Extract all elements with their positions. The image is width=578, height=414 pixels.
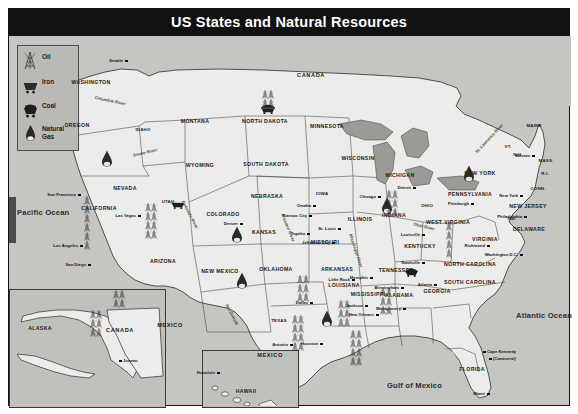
- alaska-inset: [9, 289, 166, 408]
- city-dot: [401, 287, 404, 290]
- legend-label-coal: Coal: [42, 102, 56, 110]
- city-label-las-vegas: Las Vegas: [116, 213, 137, 218]
- city-label-new-york: New York: [499, 193, 518, 198]
- map-page: US States and Natural Resources: [0, 0, 578, 414]
- city-dot: [313, 205, 316, 208]
- city-dot: [365, 305, 368, 308]
- legend-label-iron: Iron: [42, 78, 54, 86]
- country-label-mexico-2: MEXICO: [157, 322, 183, 328]
- state-label-iowa: IOWA: [316, 191, 329, 196]
- state-label-conn-: CONN.: [530, 186, 545, 191]
- ocean-label-atlantic-ocean: Atlantic Ocean: [516, 311, 572, 320]
- title-bar: US States and Natural Resources: [9, 9, 569, 36]
- city-label-san-diego: San Diego: [66, 262, 86, 267]
- state-label-r-i-: R.I.: [541, 171, 549, 176]
- state-label-mass-: MASS.: [539, 158, 554, 163]
- state-label-kentucky: KENTUCKY: [404, 243, 436, 249]
- city-dot: [217, 372, 220, 375]
- city-label--canaveral-: (Canaveral): [493, 356, 516, 361]
- city-dot: [376, 314, 379, 317]
- state-label-south-dakota: SOUTH DAKOTA: [243, 161, 289, 167]
- state-label-florida: FLORIDA: [459, 366, 485, 372]
- oil-field-icon: [292, 315, 304, 351]
- city-label-st-louis: St. Louis: [318, 226, 336, 231]
- city-dot: [413, 187, 416, 190]
- city-dot: [138, 215, 141, 218]
- city-label-cape-kennedy: Cape Kennedy: [487, 349, 516, 354]
- city-dot: [471, 203, 474, 206]
- natural-gas-drop-icon: [231, 226, 243, 247]
- legend-box: Oil Iron: [17, 45, 79, 151]
- oil-field-icon: [262, 90, 274, 108]
- state-label-kansas: KANSAS: [252, 229, 276, 235]
- state-label-virginia: VIRGINIA: [472, 236, 498, 242]
- scroll-edge-marker[interactable]: [9, 197, 16, 243]
- city-label-boston: Boston: [516, 153, 530, 158]
- oil-field-icon: [380, 288, 392, 315]
- oil-field-icon: [386, 190, 398, 217]
- city-label-atlanta: Atlanta: [418, 282, 432, 287]
- city-dot: [532, 155, 535, 158]
- state-label-georgia: GEORGIA: [424, 288, 451, 294]
- oil-field-icon: [113, 290, 125, 308]
- city-dot: [309, 215, 312, 218]
- city-label-honolulu: Honolulu: [197, 370, 215, 375]
- city-label-jefferson-city: Jefferson City: [302, 240, 330, 245]
- state-label-alaska: ALASKA: [28, 325, 52, 331]
- state-label-wisconsin: WISCONSIN: [341, 155, 374, 161]
- city-dot: [489, 358, 492, 361]
- hawaii-inset: [202, 350, 299, 408]
- city-dot: [88, 264, 91, 267]
- oil-field-icon: [297, 275, 309, 302]
- city-dot: [422, 262, 425, 265]
- city-dot: [403, 308, 406, 311]
- oil-field-icon: [145, 203, 157, 239]
- state-label-montana: MONTANA: [181, 118, 210, 124]
- state-label-arkansas: ARKANSAS: [321, 266, 353, 272]
- city-label-richmond: Richmond: [465, 243, 485, 248]
- city-label-omaha: Omaha: [297, 203, 311, 208]
- oil-field-icon: [350, 330, 362, 366]
- city-label-antonio: Antonio: [272, 342, 288, 347]
- coal-cart-icon: [22, 99, 39, 119]
- country-label-mexico-3: MEXICO: [257, 352, 283, 358]
- oil-field-icon: [84, 196, 90, 250]
- state-label-delaware: DELAWARE: [513, 226, 545, 232]
- state-label-michigan: MICHIGAN: [385, 172, 414, 178]
- city-label-detroit: Detroit: [398, 185, 412, 190]
- city-dot: [320, 343, 323, 346]
- city-dot: [310, 302, 313, 305]
- city-dot: [307, 233, 310, 236]
- state-label-oregon: OREGON: [64, 122, 89, 128]
- state-label-arizona: ARIZONA: [150, 258, 176, 264]
- map-frame: US States and Natural Resources: [8, 8, 570, 406]
- iron-cart-icon: [22, 75, 39, 95]
- city-label-louisville: Louisville: [401, 232, 420, 237]
- state-label-oklahoma: OKLAHOMA: [259, 266, 292, 272]
- city-label-juneau: Juneau: [123, 358, 138, 363]
- country-label-canada-1: CANADA: [106, 327, 134, 333]
- state-label-nebraska: NEBRASKA: [251, 193, 283, 199]
- state-label-new-mexico: NEW MEXICO: [201, 268, 239, 274]
- ocean-label-pacific-ocean: Pacific Ocean: [17, 208, 69, 217]
- state-label-vt-: VT.: [505, 144, 512, 149]
- city-dot: [338, 228, 341, 231]
- city-label-los-angeles: Los Angeles: [53, 243, 78, 248]
- natural-gas-drop-icon: [236, 272, 248, 293]
- state-label-nevada: NEVADA: [113, 185, 137, 191]
- country-label-canada-0: CANADA: [297, 72, 325, 78]
- city-dot: [434, 284, 437, 287]
- city-label-little-rock: Little Rock: [329, 277, 350, 282]
- state-label-north-dakota: NORTH DAKOTA: [242, 118, 288, 124]
- city-dot: [520, 195, 523, 198]
- state-label-texas: TEXAS: [271, 318, 287, 323]
- state-label-ohio: OHIO: [421, 203, 433, 208]
- state-label-north-carolina: NORTH CAROLINA: [444, 261, 496, 267]
- state-label-illinois: ILLINOIS: [348, 216, 373, 222]
- page-title: US States and Natural Resources: [9, 14, 569, 30]
- oil-field-icon: [90, 310, 102, 337]
- city-label-san-francisco: San Francisco: [47, 192, 76, 197]
- city-dot: [483, 351, 486, 354]
- coal-cart-icon: [404, 263, 419, 281]
- city-dot: [370, 277, 373, 280]
